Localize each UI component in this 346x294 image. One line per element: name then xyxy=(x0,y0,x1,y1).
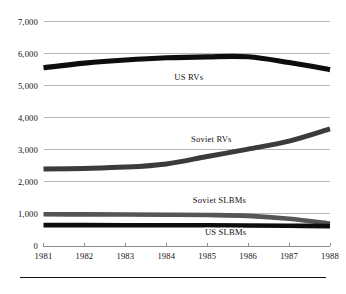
series-label-soviet-slbms: Soviet SLBMs xyxy=(193,195,247,205)
x-axis-tick-label: 1984 xyxy=(157,251,175,261)
series-line-us-rvs xyxy=(44,56,331,69)
x-axis-tick-label: 1986 xyxy=(239,251,257,261)
x-axis-tick-label: 1988 xyxy=(321,251,339,261)
y-axis-tick-label: 6,000 xyxy=(18,49,38,59)
x-axis-labels-group: 19811982198319841985198619871988 xyxy=(35,251,339,261)
y-axis-tick-label: 4,000 xyxy=(18,113,38,123)
series-label-soviet-rvs: Soviet RVs xyxy=(191,134,232,144)
y-axis-tick-label: 0 xyxy=(34,241,38,251)
series-label-us-slbms: US SLBMs xyxy=(205,227,247,237)
x-axis-tickmarks-group xyxy=(44,243,331,246)
x-axis-tick-label: 1982 xyxy=(76,251,94,261)
y-axis-tick-label: 3,000 xyxy=(18,145,38,155)
y-axis-tick-label: 2,000 xyxy=(18,177,38,187)
x-axis-tick-label: 1987 xyxy=(280,251,298,261)
y-axis-tick-label: 1,000 xyxy=(18,209,38,219)
x-axis-tick-label: 1983 xyxy=(116,251,134,261)
chart-figure: 01,0002,0003,0004,0005,0006,0007,000 198… xyxy=(0,0,346,294)
series-line-us-slbms xyxy=(44,225,331,226)
line-chart-svg: 01,0002,0003,0004,0005,0006,0007,000 198… xyxy=(0,0,346,294)
x-axis-tick-label: 1981 xyxy=(35,251,53,261)
y-axis-labels-group: 01,0002,0003,0004,0005,0006,0007,000 xyxy=(18,17,38,252)
y-axis-tick-label: 7,000 xyxy=(18,17,38,27)
y-axis-tick-label: 5,000 xyxy=(18,81,38,91)
series-line-soviet-rvs xyxy=(44,129,331,169)
gridlines-group xyxy=(44,22,331,214)
x-axis-tick-label: 1985 xyxy=(198,251,216,261)
series-label-us-rvs: US RVs xyxy=(174,72,203,82)
series-line-soviet-slbms xyxy=(44,214,331,223)
